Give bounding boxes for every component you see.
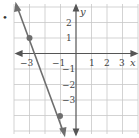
svg-text:y: y [79, 6, 86, 17]
svg-text:1: 1 [89, 58, 95, 68]
y-axis-up-arrow-icon [74, 5, 79, 11]
coordinate-plane: −3 −1 1 2 3 x 2 1 −1 −2 −3 y [0, 0, 139, 138]
x-axis-left-arrow-icon [16, 51, 22, 56]
svg-text:2: 2 [66, 18, 72, 28]
svg-text:−2: −2 [62, 80, 75, 90]
line-top-arrow-icon [15, 4, 20, 11]
point-neg3-1 [27, 36, 31, 40]
y-axis-down-arrow-icon [74, 129, 79, 135]
line-bottom-arrow-icon [61, 128, 66, 135]
x-axis-right-arrow-icon [131, 51, 137, 56]
svg-text:−3: −3 [62, 95, 76, 105]
svg-text:1: 1 [66, 33, 72, 43]
svg-text:2: 2 [104, 58, 110, 68]
tick-labels: −3 −1 1 2 3 x 2 1 −1 −2 −3 y [20, 6, 136, 105]
svg-text:3: 3 [119, 58, 125, 68]
svg-text:x: x [130, 57, 136, 68]
svg-text:−1: −1 [62, 64, 75, 74]
point-neg1-neg4 [58, 114, 62, 118]
svg-text:−3: −3 [20, 58, 34, 68]
